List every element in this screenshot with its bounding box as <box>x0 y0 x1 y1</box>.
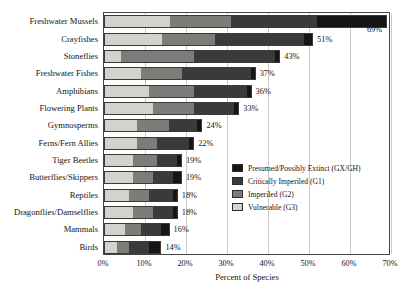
bar-segment-g3 <box>105 103 153 114</box>
x-axis-title: Percent of Species <box>103 272 391 282</box>
x-axis-tick-label: 60% <box>341 259 356 268</box>
value-label: 43% <box>284 48 299 65</box>
value-label: 33% <box>243 100 258 117</box>
value-label: 16% <box>174 221 189 238</box>
value-label: 18% <box>182 187 197 204</box>
category-label: Crayfishes <box>0 31 98 48</box>
legend-label: Vulnerable (G3) <box>248 203 298 212</box>
legend-swatch-gx <box>232 164 243 172</box>
bar-segment-g1 <box>153 207 173 218</box>
bar-segment-g3 <box>105 224 125 235</box>
category-label: Reptiles <box>0 187 98 204</box>
bar-segment-g3 <box>105 51 121 62</box>
legend-item: Vulnerable (G3) <box>232 201 361 213</box>
x-axis-tick-label: 70% <box>382 259 397 268</box>
bar-segment-gx <box>177 155 181 166</box>
plot-area: Freshwater Mussels69%Crayfishes51%Stonef… <box>103 12 390 255</box>
bar-segment-g2 <box>133 207 153 218</box>
bar-row: Gymnosperms24% <box>104 117 389 134</box>
bar-segment-gx <box>275 51 279 62</box>
bar-row: Crayfishes51% <box>104 31 389 48</box>
bar-segment-g1 <box>182 68 251 79</box>
stacked-bar <box>104 85 252 98</box>
legend-swatch-g1 <box>232 177 243 185</box>
category-label: Ferns/Fern Allies <box>0 135 98 152</box>
bar-segment-g3 <box>105 34 162 45</box>
stacked-bar <box>104 119 202 132</box>
x-axis-tick-label: 20% <box>177 259 192 268</box>
category-label: Butterflies/Skippers <box>0 169 98 186</box>
bar-rows: Freshwater Mussels69%Crayfishes51%Stonef… <box>104 13 389 254</box>
bar-segment-g1 <box>194 103 234 114</box>
bar-row: Mammals16% <box>104 221 389 238</box>
bar-segment-g2 <box>170 16 231 27</box>
bar-segment-gx <box>173 190 177 201</box>
stacked-bar <box>104 223 170 236</box>
legend-label: Presumed/Possibly Extinct (GX/GH) <box>248 164 361 173</box>
bar-segment-g2 <box>137 120 169 131</box>
stacked-bar <box>104 154 182 167</box>
x-axis-tick-label: 10% <box>136 259 151 268</box>
category-label: Birds <box>0 239 98 256</box>
bar-segment-g2 <box>133 172 153 183</box>
bar-segment-g1 <box>141 224 161 235</box>
value-label: 14% <box>165 239 180 256</box>
bar-segment-g3 <box>105 207 133 218</box>
stacked-bar <box>104 33 313 46</box>
bar-segment-g1 <box>215 34 304 45</box>
bar-row: Freshwater Fishes37% <box>104 65 389 82</box>
stacked-bar <box>104 171 182 184</box>
category-label: Dragonflies/Damselflies <box>0 204 98 221</box>
bar-segment-gx <box>197 120 201 131</box>
x-axis-tick-label: 40% <box>259 259 274 268</box>
bar-segment-g2 <box>125 224 141 235</box>
bar-segment-gx <box>304 34 312 45</box>
value-label: 36% <box>256 83 271 100</box>
category-label: Gymnosperms <box>0 117 98 134</box>
gridline <box>391 13 392 254</box>
bar-segment-g1 <box>153 172 173 183</box>
category-label: Flowering Plants <box>0 100 98 117</box>
legend-item: Presumed/Possibly Extinct (GX/GH) <box>232 162 361 174</box>
category-label: Amphibians <box>0 83 98 100</box>
bar-segment-g3 <box>105 68 141 79</box>
stacked-bar <box>104 50 280 63</box>
bar-segment-g1 <box>194 86 247 97</box>
stacked-bar <box>104 102 239 115</box>
bar-segment-g3 <box>105 16 170 27</box>
bar-segment-g2 <box>121 51 194 62</box>
bar-segment-gx <box>251 68 255 79</box>
x-axis: 0%10%20%30%40%50%60%70% <box>103 256 391 272</box>
value-label: 18% <box>182 204 197 221</box>
stacked-bar <box>104 241 161 254</box>
bar-segment-g2 <box>137 138 157 149</box>
stacked-bar <box>104 15 387 28</box>
x-axis-tick-label: 50% <box>300 259 315 268</box>
legend-swatch-g3 <box>232 203 243 211</box>
bar-row: Amphibians36% <box>104 83 389 100</box>
legend-item: Critically Imperiled (G1) <box>232 175 361 187</box>
bar-row: Freshwater Mussels69% <box>104 13 389 30</box>
bar-segment-g3 <box>105 242 117 253</box>
bar-row: Flowering Plants33% <box>104 100 389 117</box>
legend-item: Imperiled (G2) <box>232 188 361 200</box>
bar-segment-g1 <box>169 120 197 131</box>
bar-segment-gx <box>234 103 238 114</box>
stacked-bar <box>104 189 178 202</box>
stacked-bar <box>104 206 178 219</box>
category-label: Freshwater Mussels <box>0 13 98 30</box>
bar-segment-g2 <box>149 86 193 97</box>
value-label: 24% <box>206 117 221 134</box>
bar-segment-g1 <box>129 242 149 253</box>
category-label: Freshwater Fishes <box>0 65 98 82</box>
value-label: 37% <box>260 65 275 82</box>
bar-segment-g2 <box>153 103 193 114</box>
bar-segment-gx <box>247 86 251 97</box>
bar-segment-g1 <box>157 138 189 149</box>
bar-segment-gx <box>173 207 177 218</box>
bar-segment-g1 <box>231 16 316 27</box>
bar-segment-g3 <box>105 190 129 201</box>
legend-swatch-g2 <box>232 190 243 198</box>
bar-segment-gx <box>173 172 181 183</box>
stacked-bar <box>104 67 256 80</box>
